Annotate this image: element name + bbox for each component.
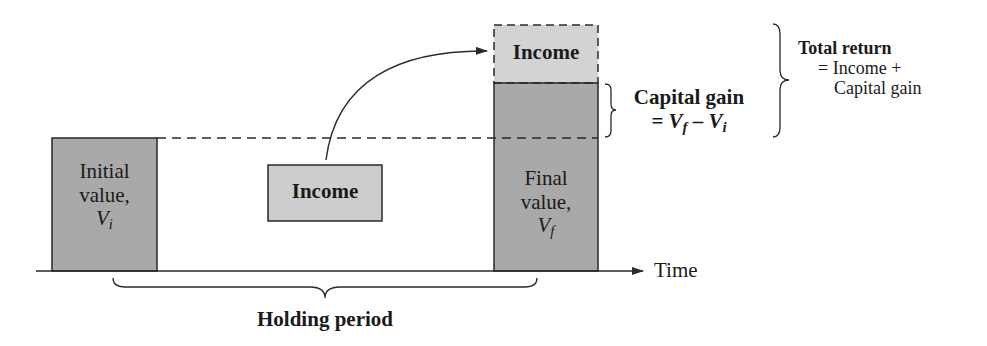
initial-value-label: Initial value, Vi: [52, 160, 157, 233]
capital-gain-title: Capital gain: [614, 86, 764, 110]
total-return-brace: [773, 24, 789, 137]
holding-period-label: Holding period: [200, 308, 450, 332]
capital-gain-label: Capital gain = Vf – Vi: [614, 86, 764, 135]
final-value-line2: value,: [494, 191, 598, 215]
total-return-line2: = Income +: [798, 58, 978, 78]
final-value-label: Final value, Vf: [494, 167, 598, 240]
initial-value-symbol: Vi: [52, 207, 157, 233]
final-value-line1: Final: [494, 167, 598, 191]
top-income-label: Income: [494, 41, 598, 65]
final-value-symbol: Vf: [494, 214, 598, 240]
time-axis-label: Time: [654, 259, 698, 283]
income-transfer-arrow: [326, 51, 487, 160]
middle-income-label: Income: [268, 180, 382, 204]
capital-gain-formula: = Vf – Vi: [614, 110, 764, 136]
initial-value-line2: value,: [52, 184, 157, 208]
initial-value-line1: Initial: [52, 160, 157, 184]
total-return-label: Total return = Income + Capital gain: [798, 38, 978, 98]
total-return-title: Total return: [798, 38, 978, 58]
holding-period-brace: [113, 278, 537, 298]
total-return-line3: Capital gain: [798, 78, 978, 98]
